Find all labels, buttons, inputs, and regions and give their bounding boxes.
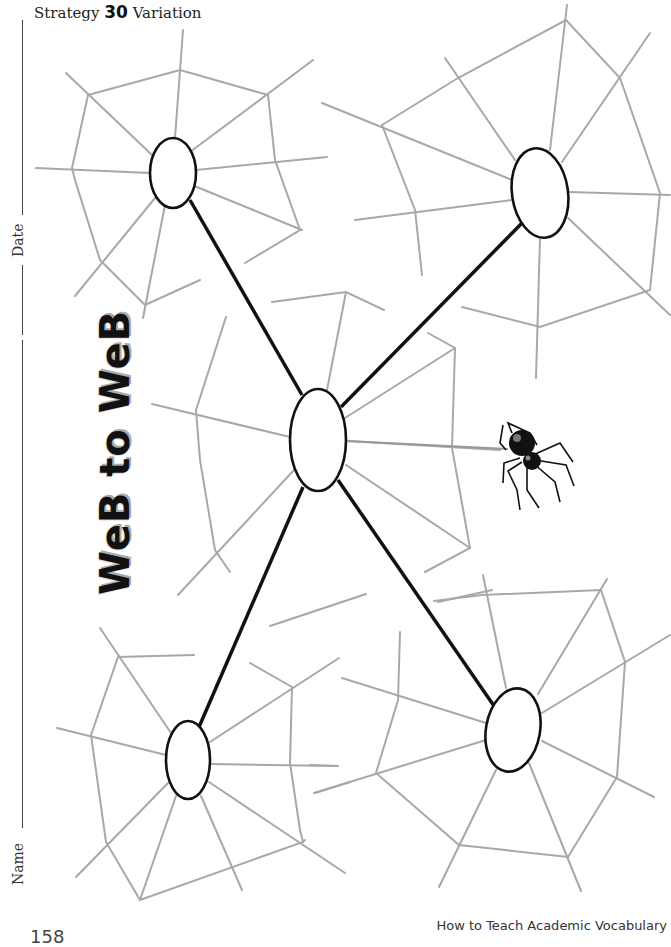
node-top-left[interactable]	[150, 138, 196, 208]
node-bottom-left[interactable]	[166, 721, 210, 799]
worksheet-title: WeB to WeB	[92, 310, 138, 595]
node-center[interactable]	[290, 389, 346, 491]
book-title: How to Teach Academic Vocabulary	[436, 918, 667, 933]
web-top-right	[322, 5, 670, 378]
link-center-top-left	[190, 200, 302, 395]
link-center-bottom-right	[338, 480, 494, 706]
page-number: 158	[30, 926, 64, 947]
web-links	[190, 200, 522, 727]
